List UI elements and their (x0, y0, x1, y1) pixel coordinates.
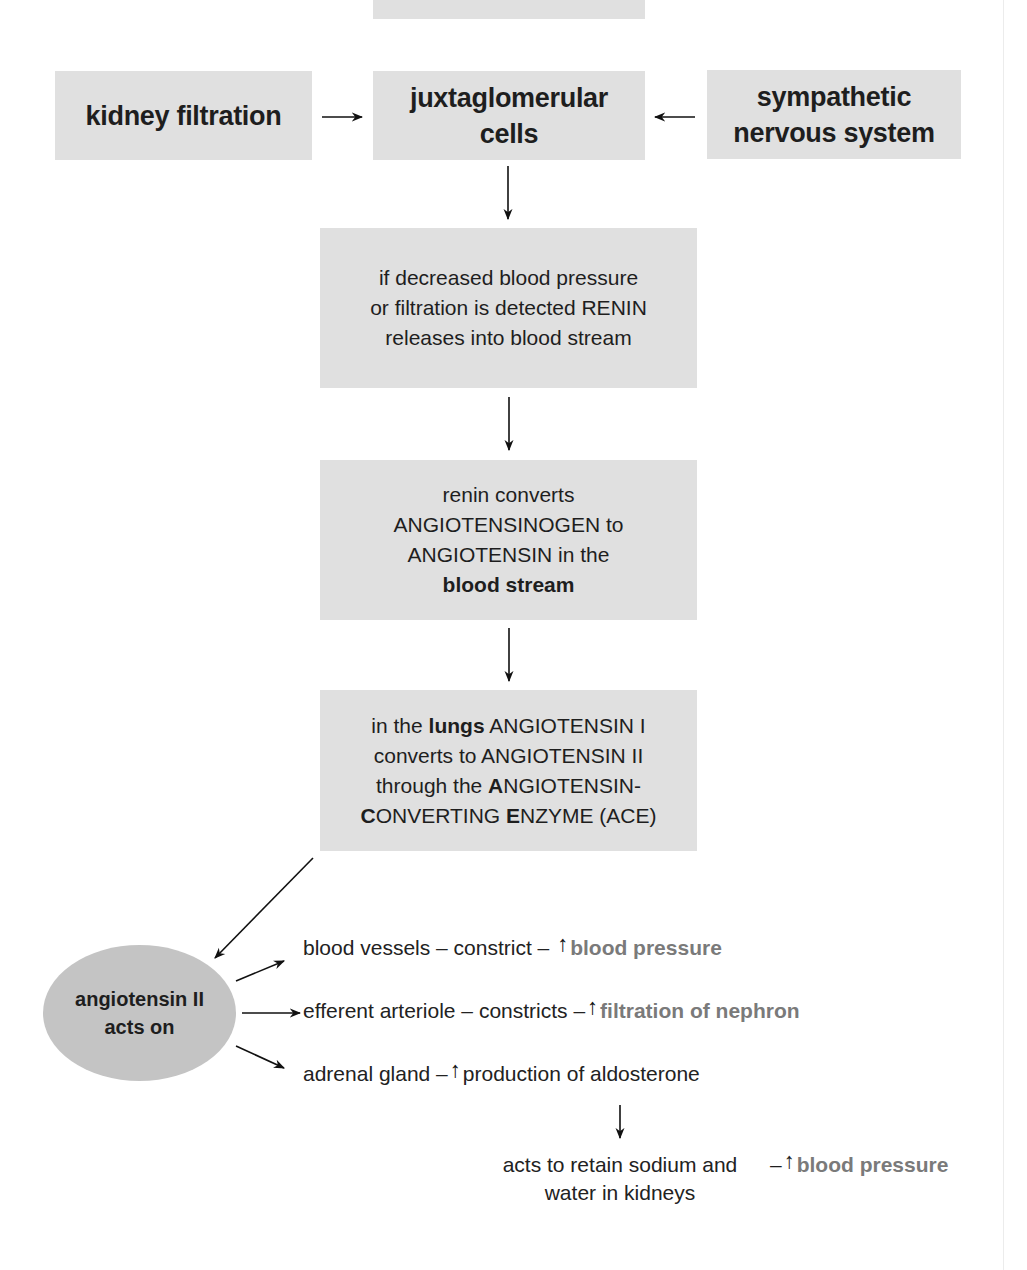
effect-target: blood vessels – constrict – (303, 936, 549, 959)
ace-line4-bold-c: C (361, 804, 376, 827)
ace-line2: converts to ANGIOTENSIN II (374, 744, 644, 767)
result-line1: acts to retain sodium and (503, 1153, 738, 1176)
result-dash: – (770, 1153, 782, 1176)
page-edge-divider (1003, 0, 1004, 1270)
arrow-hub-to-vessels (236, 961, 284, 981)
increase-arrow-icon: ↑ (557, 930, 568, 958)
effect-blood-vessels: blood vessels – constrict – ↑blood press… (303, 934, 722, 962)
renin-converts-line3: ANGIOTENSIN in the (408, 543, 610, 566)
aldosterone-result-outcome: –↑blood pressure (770, 1151, 948, 1179)
ace-line1-pre: in the (371, 714, 428, 737)
effect-outcome: production of aldosterone (463, 1062, 700, 1085)
renin-converts-line1: renin converts (443, 483, 575, 506)
ace-line3-post: NGIOTENSIN- (503, 774, 641, 797)
arrow-hub-to-adrenal (236, 1046, 284, 1068)
ace-line3-pre: through the (376, 774, 488, 797)
angiotensin-ii-hub: angiotensin II acts on (43, 945, 236, 1081)
hub-line2: acts on (104, 1016, 174, 1038)
hub-line1: angiotensin II (75, 988, 204, 1010)
renin-converts-line2: ANGIOTENSINOGEN to (394, 513, 624, 536)
juxtaglomerular-cells-box: juxtaglomerular cells (373, 71, 645, 160)
effect-outcome: blood pressure (570, 936, 722, 959)
renin-converts-box: renin converts ANGIOTENSINOGEN to ANGIOT… (320, 460, 697, 620)
ace-line4-post: NZYME (ACE) (520, 804, 657, 827)
juxtaglomerular-label-line2: cells (480, 119, 539, 149)
kidney-filtration-box: kidney filtration (55, 71, 312, 160)
ace-line1-post: ANGIOTENSIN I (485, 714, 646, 737)
juxtaglomerular-label-line1: juxtaglomerular (410, 83, 608, 113)
result-outcome-label: blood pressure (797, 1153, 949, 1176)
sympathetic-nervous-system-box: sympathetic nervous system (707, 70, 961, 159)
effect-efferent-arteriole: efferent arteriole – constricts –↑filtra… (303, 997, 800, 1025)
ace-line4-mid: ONVERTING (376, 804, 506, 827)
renin-release-line1: if decreased blood pressure (379, 266, 638, 289)
ace-line4-bold-e: E (506, 804, 520, 827)
increase-arrow-icon: ↑ (784, 1147, 795, 1175)
ace-line3-bold: A (488, 774, 503, 797)
ace-conversion-box: in the lungs ANGIOTENSIN I converts to A… (320, 690, 697, 851)
renin-release-line3: releases into blood stream (385, 326, 631, 349)
effect-target: efferent arteriole – constricts – (303, 999, 585, 1022)
arrow-ace-to-hub (215, 858, 313, 958)
effect-adrenal-gland: adrenal gland –↑production of aldosteron… (303, 1060, 700, 1088)
top-partial-box (373, 0, 645, 19)
effect-target: adrenal gland – (303, 1062, 448, 1085)
result-line2: water in kidneys (545, 1181, 696, 1204)
increase-arrow-icon: ↑ (450, 1056, 461, 1084)
renin-release-line2: or filtration is detected RENIN (370, 296, 647, 319)
sympathetic-label-line1: sympathetic (757, 82, 911, 112)
renin-converts-line4: blood stream (443, 573, 575, 596)
aldosterone-result-text: acts to retain sodium and water in kidne… (470, 1151, 770, 1207)
ace-line1-lungs: lungs (429, 714, 485, 737)
increase-arrow-icon: ↑ (587, 993, 598, 1021)
effect-outcome: filtration of nephron (600, 999, 799, 1022)
renin-release-box: if decreased blood pressure or filtratio… (320, 228, 697, 388)
sympathetic-label-line2: nervous system (733, 118, 934, 148)
kidney-filtration-label: kidney filtration (86, 98, 282, 134)
